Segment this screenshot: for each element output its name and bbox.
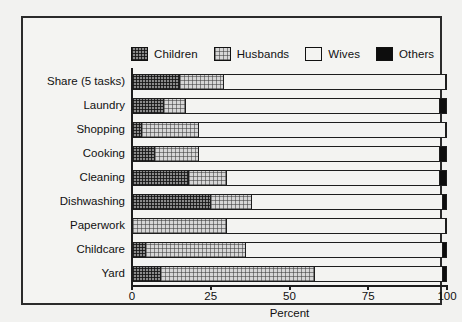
y-axis-label: Shopping — [76, 121, 125, 138]
y-axis-label: Childcare — [76, 241, 125, 258]
bar-row: Dishwashing — [132, 194, 447, 210]
bar-segment-husbands — [133, 219, 227, 233]
legend-label: Husbands — [237, 48, 290, 60]
stacked-bar — [132, 194, 447, 210]
stacked-bar — [132, 218, 447, 234]
bar-row: Yard — [132, 266, 447, 282]
bar-segment-wives — [252, 195, 443, 209]
bar-segment-children — [133, 267, 161, 281]
bar-segment-children — [133, 195, 211, 209]
bar-segment-children — [133, 123, 142, 137]
stacked-bar — [132, 98, 447, 114]
bar-row: Cooking — [132, 146, 447, 162]
y-axis-label: Laundry — [83, 97, 125, 114]
legend-item-wives: Wives — [305, 47, 360, 61]
bar-segment-others — [443, 267, 446, 281]
wives-swatch-icon — [305, 47, 322, 61]
bar-segment-others — [443, 243, 446, 257]
bar-segment-husbands — [164, 99, 186, 113]
x-tick-label: 100 — [437, 290, 456, 302]
bar-segment-husbands — [161, 267, 314, 281]
bar-row: Paperwork — [132, 218, 447, 234]
chart-frame: ChildrenHusbandsWivesOthers Share (5 tas… — [21, 16, 442, 305]
chart-figure: ChildrenHusbandsWivesOthers Share (5 tas… — [0, 0, 462, 322]
stacked-bar — [132, 170, 447, 186]
bar-segment-children — [133, 243, 146, 257]
stacked-bar — [132, 242, 447, 258]
bar-segment-others — [440, 171, 446, 185]
children-swatch-icon — [131, 47, 148, 61]
bar-segment-wives — [186, 99, 440, 113]
bar-row: Shopping — [132, 122, 447, 138]
bar-segment-wives — [199, 123, 446, 137]
x-tick-label: 25 — [204, 290, 217, 302]
bar-segment-husbands — [155, 147, 199, 161]
others-swatch-icon — [376, 47, 393, 61]
y-axis-label: Dishwashing — [60, 193, 125, 210]
bar-segment-children — [133, 147, 155, 161]
y-axis-label: Paperwork — [70, 217, 125, 234]
bar-row: Laundry — [132, 98, 447, 114]
bar-segment-others — [443, 195, 446, 209]
y-axis-label: Share (5 tasks) — [47, 73, 125, 90]
bar-segment-wives — [227, 219, 446, 233]
legend-item-others: Others — [376, 47, 434, 61]
stacked-bar — [132, 74, 447, 90]
bar-row: Cleaning — [132, 170, 447, 186]
bar-segment-children — [133, 171, 189, 185]
bar-segment-husbands — [211, 195, 252, 209]
legend-label: Wives — [328, 48, 360, 60]
x-axis-title: Percent — [132, 307, 447, 319]
bar-segment-wives — [199, 147, 440, 161]
y-axis-label: Cleaning — [80, 169, 125, 186]
bar-row: Share (5 tasks) — [132, 74, 447, 90]
bar-segment-children — [133, 75, 180, 89]
legend-label: Others — [399, 48, 434, 60]
x-tick-label: 0 — [129, 290, 135, 302]
husbands-swatch-icon — [214, 47, 231, 61]
chart-legend: ChildrenHusbandsWivesOthers — [131, 45, 443, 63]
legend-item-children: Children — [131, 47, 198, 61]
bar-segment-others — [440, 147, 446, 161]
plot-area: Share (5 tasks)LaundryShoppingCookingCle… — [132, 68, 447, 285]
y-axis-label: Cooking — [83, 145, 125, 162]
bar-segment-husbands — [189, 171, 227, 185]
legend-item-husbands: Husbands — [214, 47, 290, 61]
bar-segment-wives — [227, 171, 440, 185]
bar-row: Childcare — [132, 242, 447, 258]
bar-segment-husbands — [180, 75, 224, 89]
bar-segment-husbands — [146, 243, 246, 257]
bar-segment-wives — [315, 267, 443, 281]
stacked-bar — [132, 266, 447, 282]
bar-segment-wives — [224, 75, 446, 89]
x-tick-label: 50 — [283, 290, 296, 302]
bar-segment-wives — [246, 243, 443, 257]
bar-segment-husbands — [142, 123, 198, 137]
bar-segment-others — [440, 99, 446, 113]
x-tick-label: 75 — [362, 290, 375, 302]
bar-segment-children — [133, 99, 164, 113]
stacked-bar — [132, 146, 447, 162]
stacked-bar — [132, 122, 447, 138]
legend-label: Children — [154, 48, 198, 60]
y-axis-label: Yard — [102, 265, 125, 282]
